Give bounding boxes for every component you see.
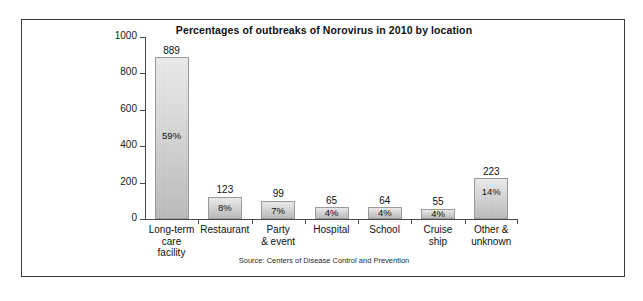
y-tick-mark [140,183,145,184]
y-tick-label: 400 [120,139,137,150]
y-tick-label: 800 [120,66,137,77]
bar-group-school[interactable]: 64 4% [368,37,402,219]
x-axis-line [145,219,518,220]
source-note: Source: Centers of Disease Control and P… [22,256,626,265]
y-axis-line [145,37,146,219]
y-tick-mark [140,110,145,111]
y-tick-label: 600 [120,103,137,114]
bar-percent-label: 4% [378,207,392,218]
bar-value-label: 65 [326,195,337,206]
bar-group-cruise-ship[interactable]: 55 4% [421,37,455,219]
bar-value-label: 55 [432,196,443,207]
y-tick-400: 400 [145,146,146,147]
x-category-label-other-and-unknown: Other & unknown [460,224,523,247]
bar-value-label: 123 [217,184,234,195]
figure-frame: Percentages of outbreaks of Norovirus in… [21,19,625,277]
bar-value-label: 889 [163,45,180,56]
cat-line: & event [247,236,310,248]
cat-line: Other & [460,224,523,236]
cat-line: unknown [460,236,523,248]
y-tick-mark [140,146,145,147]
y-tick-0: 0 [145,219,146,220]
bar-percent-label: 8% [218,202,232,213]
bar-percent-label: 4% [325,207,339,218]
bar-group-party-and-event[interactable]: 99 7% [261,37,295,219]
bar-value-label: 223 [483,166,500,177]
y-tick-800: 800 [145,73,146,74]
bar-group-restaurant[interactable]: 123 8% [208,37,242,219]
bar-group-other-and-unknown[interactable]: 223 14% [474,37,508,219]
bar-value-label: 99 [273,188,284,199]
chart-title: Percentages of outbreaks of Norovirus in… [22,24,626,36]
y-tick-label: 0 [131,212,137,223]
y-tick-mark [140,37,145,38]
y-tick-600: 600 [145,110,146,111]
plot-area: 1000 800 600 400 200 0 [145,37,518,219]
bar-percent-label: 59% [162,130,181,141]
bar[interactable] [474,178,508,219]
y-tick-label: 1000 [115,30,137,41]
cat-line: care [140,236,203,248]
bar-percent-label: 7% [271,205,285,216]
y-tick-mark [140,73,145,74]
y-tick-1000: 1000 [145,37,146,38]
y-tick-200: 200 [145,183,146,184]
bar-group-long-term-care-facility[interactable]: 889 59% [155,37,189,219]
bar-percent-label: 14% [482,186,501,197]
bar-value-label: 64 [379,195,390,206]
bar-percent-label: 4% [431,208,445,219]
y-tick-mark [140,219,145,220]
bar-group-hospital[interactable]: 65 4% [315,37,349,219]
y-tick-label: 200 [120,176,137,187]
